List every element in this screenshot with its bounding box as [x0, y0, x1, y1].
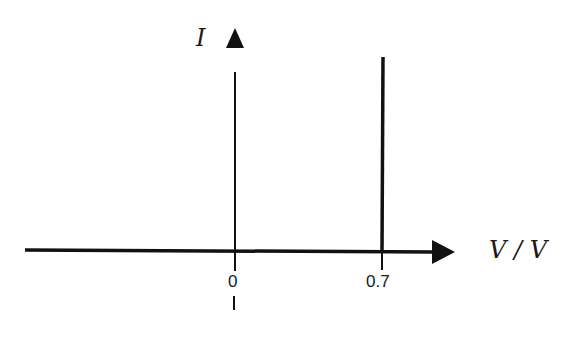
y-axis-label: I	[196, 24, 205, 52]
y-axis-arrow-icon	[226, 28, 244, 48]
iv-graph	[0, 0, 580, 340]
x-axis-label: V / V	[489, 236, 547, 264]
tick-label-0.7: 0.7	[366, 272, 390, 292]
x-axis	[25, 250, 435, 252]
tick-label-0: 0	[228, 272, 237, 292]
x-axis-arrow-icon	[432, 240, 455, 264]
characteristic-line	[382, 57, 383, 252]
